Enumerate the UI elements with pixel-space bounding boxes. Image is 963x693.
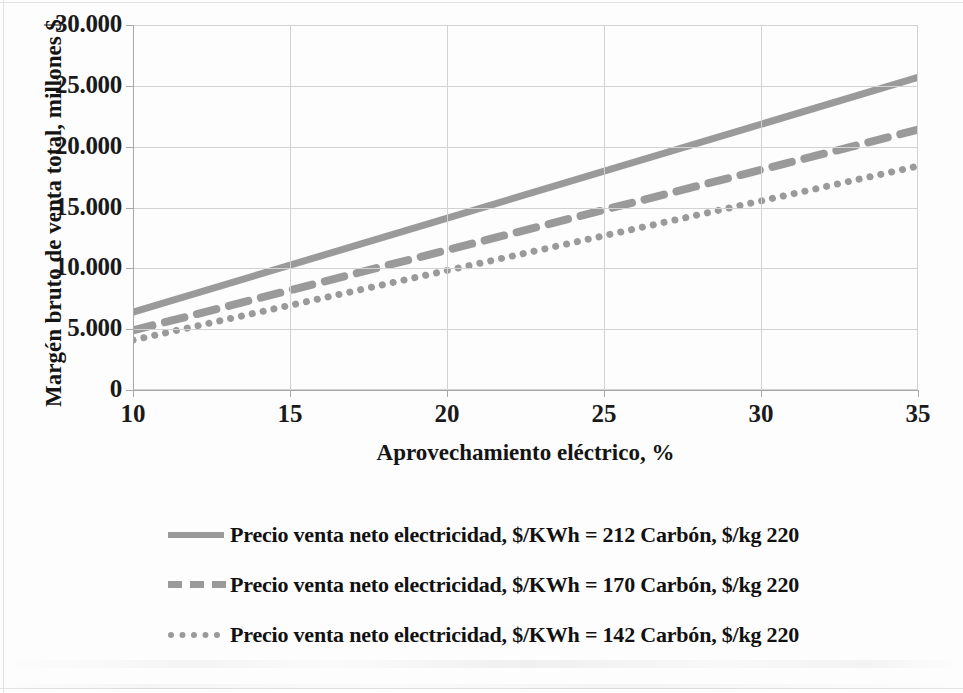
x-axis-tick (133, 390, 134, 397)
y-axis-title-wrapper: Margén bruto de venta total, millones $ (24, 0, 54, 420)
scan-artifact (0, 660, 963, 668)
y-axis-tick (126, 86, 133, 87)
y-axis-title: Margén bruto de venta total, millones $ (41, 0, 67, 493)
legend-item-label: Precio venta neto electricidad, $/KWh = … (230, 622, 799, 648)
y-axis-tick (126, 147, 133, 148)
scanned-page: 30.000 25.000 20.000 15.000 10.000 5.000… (0, 0, 963, 693)
y-axis-tick (126, 25, 133, 26)
line-chart-figure: 30.000 25.000 20.000 15.000 10.000 5.000… (0, 0, 963, 693)
legend-item[interactable]: Precio venta neto electricidad, $/KWh = … (168, 510, 868, 560)
x-axis-tick (761, 390, 762, 397)
y-axis-tick (126, 268, 133, 269)
x-axis-tick (918, 390, 919, 397)
x-axis-tick-label: 20 (407, 400, 487, 428)
x-axis-tick-label: 30 (721, 400, 801, 428)
legend-item-label: Precio venta neto electricidad, $/KWh = … (230, 522, 799, 548)
legend-item[interactable]: Precio venta neto electricidad, $/KWh = … (168, 610, 868, 660)
chart-legend: Precio venta neto electricidad, $/KWh = … (168, 510, 868, 660)
y-axis-tick (126, 390, 133, 391)
gridline-horizontal (133, 86, 918, 87)
gridline-horizontal (133, 329, 918, 330)
legend-item[interactable]: Precio venta neto electricidad, $/KWh = … (168, 560, 868, 610)
x-axis-title: Aprovechamiento eléctrico, % (133, 440, 918, 466)
legend-line-dotted-icon (168, 626, 224, 644)
series-line-solid (133, 77, 918, 312)
gridline-vertical (447, 25, 448, 390)
y-axis-tick (126, 208, 133, 209)
series-line-dashed (133, 130, 918, 331)
plot-area (133, 25, 918, 390)
gridline-vertical (761, 25, 762, 390)
legend-item-label: Precio venta neto electricidad, $/KWh = … (230, 572, 799, 598)
x-axis-tick (447, 390, 448, 397)
x-axis-tick (290, 390, 291, 397)
gridline-horizontal (133, 147, 918, 148)
scan-artifact (0, 684, 963, 689)
x-axis-tick (604, 390, 605, 397)
gridline-horizontal (133, 208, 918, 209)
gridline-vertical (290, 25, 291, 390)
gridline-horizontal (133, 268, 918, 269)
x-axis-tick-label: 35 (878, 400, 958, 428)
x-axis-tick-label: 25 (564, 400, 644, 428)
y-axis-line (133, 25, 134, 391)
gridline-vertical (917, 25, 918, 390)
legend-line-dashed-icon (168, 576, 224, 594)
gridline-horizontal (133, 25, 918, 26)
x-axis-tick-label: 10 (93, 400, 173, 428)
x-axis-line (133, 390, 919, 391)
y-axis-tick (126, 329, 133, 330)
gridline-vertical (604, 25, 605, 390)
legend-line-solid-icon (168, 526, 224, 544)
x-axis-tick-label: 15 (250, 400, 330, 428)
